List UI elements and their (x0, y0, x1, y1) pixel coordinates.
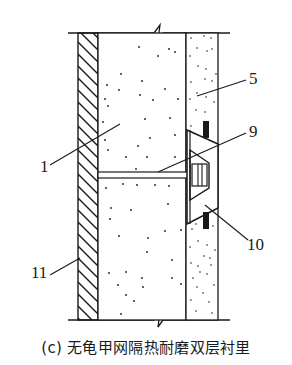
label-10: 10 (247, 236, 264, 253)
figure-caption: (c) 无龟甲网隔热耐磨双层衬里 (0, 336, 292, 357)
shell-wall-hatched (78, 33, 98, 320)
anchor-rod (98, 172, 190, 178)
label-1: 1 (40, 158, 49, 175)
label-11: 11 (31, 264, 47, 281)
label-9: 9 (249, 123, 258, 140)
label-5: 5 (249, 70, 258, 87)
